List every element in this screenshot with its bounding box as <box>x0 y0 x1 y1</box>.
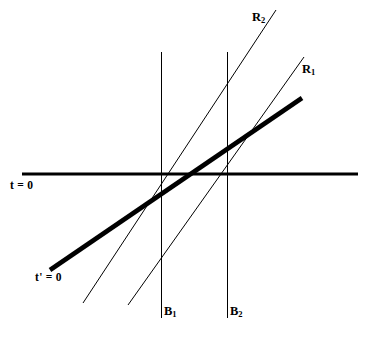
spacetime-diagram: t = 0 t' = 0 B1 B2 R1 R2 <box>0 0 369 339</box>
label-r1-base: R <box>302 62 311 76</box>
diagram-canvas <box>0 0 369 339</box>
label-r2-base: R <box>252 10 261 24</box>
label-r2-subscript: 2 <box>261 15 265 25</box>
label-t-prime-equals-zero: t' = 0 <box>35 272 62 284</box>
label-b2: B2 <box>230 305 243 319</box>
label-b1-subscript: 1 <box>172 309 176 319</box>
label-r1-subscript: 1 <box>311 67 315 77</box>
label-r1: R1 <box>302 63 315 77</box>
label-b1: B1 <box>164 305 177 319</box>
label-b2-subscript: 2 <box>238 309 242 319</box>
label-r2: R2 <box>252 11 265 25</box>
diagram-background <box>0 0 369 339</box>
label-t-equals-zero: t = 0 <box>10 180 33 192</box>
